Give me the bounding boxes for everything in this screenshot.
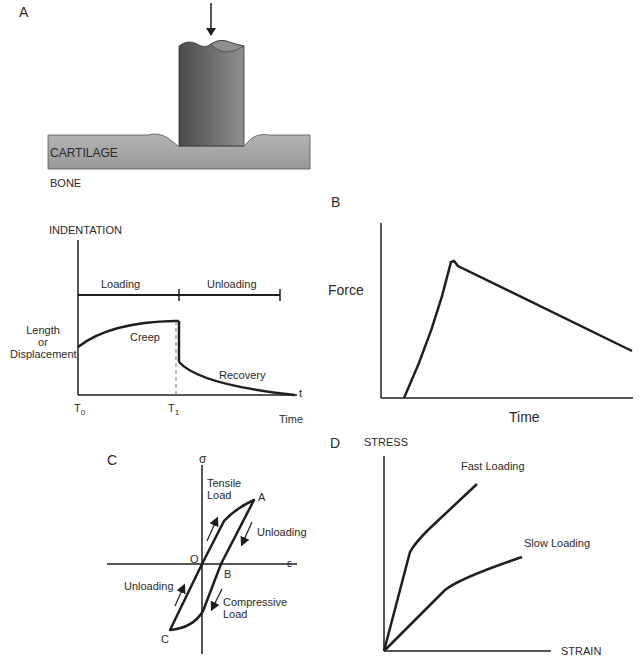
point-a-label: A <box>258 491 265 503</box>
panel-c-letter: C <box>107 452 117 468</box>
stress-strain-hysteresis <box>107 465 297 654</box>
sigma-axis-label: σ <box>199 452 206 466</box>
time-label-b: Time <box>509 409 540 425</box>
figure-graphics <box>0 0 642 666</box>
strain-rate-chart <box>384 456 551 651</box>
force-time-chart <box>381 223 633 398</box>
ylabel-line3: Displacement <box>10 348 76 360</box>
slow-loading-label: Slow Loading <box>524 537 590 549</box>
indenter-cylinder <box>179 40 244 146</box>
strain-label: STRAIN <box>561 645 601 657</box>
loading-label: Loading <box>101 278 140 290</box>
panel-a-letter: A <box>19 4 28 20</box>
recovery-label: Recovery <box>219 369 265 381</box>
compressive-line2: Load <box>223 608 287 620</box>
stress-label: STRESS <box>364 436 408 448</box>
fast-loading-label: Fast Loading <box>461 460 525 472</box>
panel-d-letter: D <box>330 435 340 451</box>
creep-label: Creep <box>130 331 160 343</box>
force-label: Force <box>328 282 364 298</box>
panel-b-letter: B <box>331 194 340 210</box>
point-b-label: B <box>224 568 231 580</box>
point-c-label: C <box>161 633 169 645</box>
cartilage-label: CARTILAGE <box>50 146 118 160</box>
unloading-label: Unloading <box>207 278 257 290</box>
time-label-a: Time <box>279 413 303 425</box>
tensile-load-label: Tensile Load <box>207 477 241 501</box>
ylabel-line2: or <box>10 336 76 348</box>
epsilon-axis-label: ε <box>287 557 292 569</box>
compressive-line1: Compressive <box>223 596 287 608</box>
unloading-left-label: Unloading <box>124 580 174 592</box>
t0-label: T0 <box>74 402 85 417</box>
t1-label: T1 <box>168 402 179 417</box>
y-axis-label-displacement: Length or Displacement <box>10 324 76 360</box>
tensile-line1: Tensile <box>207 477 241 489</box>
tensile-line2: Load <box>207 489 241 501</box>
point-o-label: O <box>190 553 199 565</box>
indentation-diagram <box>48 3 310 169</box>
bone-label: BONE <box>50 177 81 189</box>
compressive-load-label: Compressive Load <box>223 596 287 620</box>
indentation-label: INDENTATION <box>49 224 122 236</box>
t-axis-label: t <box>299 387 302 399</box>
ylabel-line1: Length <box>10 324 76 336</box>
unloading-right-label: Unloading <box>257 526 307 538</box>
